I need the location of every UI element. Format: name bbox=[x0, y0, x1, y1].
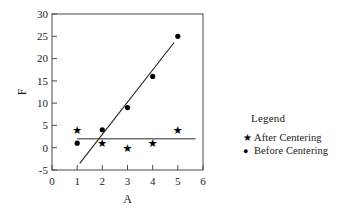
x-tick-label: 2 bbox=[100, 175, 106, 187]
x-axis-tick-labels: 0 1 2 3 4 5 6 bbox=[49, 175, 206, 187]
scatter-plot-canvas: -5 0 5 10 15 20 25 30 0 1 2 3 4 5 6 A F bbox=[0, 0, 360, 214]
legend-entry-before-centering: ● Before Centering bbox=[243, 144, 358, 158]
circle-icon: ● bbox=[243, 145, 254, 158]
x-tick-label: 4 bbox=[150, 175, 156, 187]
y-tick-label: 10 bbox=[37, 97, 49, 109]
y-axis-tick-labels: -5 0 5 10 15 20 25 30 bbox=[37, 8, 49, 176]
y-tick-label: 25 bbox=[37, 30, 49, 42]
y-tick-label: 15 bbox=[37, 75, 49, 87]
x-axis-ticks bbox=[52, 165, 203, 170]
data-point-circle bbox=[175, 34, 180, 39]
series-before-centering bbox=[75, 34, 181, 146]
data-point-circle bbox=[100, 127, 105, 132]
legend-title: Legend bbox=[251, 112, 358, 124]
legend-entry-after-centering: ★ After Centering bbox=[243, 131, 358, 144]
x-tick-label: 5 bbox=[175, 175, 181, 187]
data-point-circle bbox=[150, 74, 155, 79]
data-point-star: ★ bbox=[97, 137, 107, 150]
legend-entry-label: After Centering bbox=[254, 131, 322, 144]
y-axis-ticks bbox=[52, 14, 57, 170]
y-tick-label: 20 bbox=[37, 52, 49, 64]
data-point-circle bbox=[75, 141, 80, 146]
x-tick-label: 1 bbox=[74, 175, 80, 187]
y-axis-label: F bbox=[15, 88, 29, 95]
star-icon: ★ bbox=[243, 131, 254, 144]
data-point-star: ★ bbox=[72, 124, 82, 137]
y-tick-label: 30 bbox=[37, 8, 49, 20]
y-tick-label: 0 bbox=[43, 142, 49, 154]
data-point-circle bbox=[125, 105, 130, 110]
x-axis-label: A bbox=[123, 192, 132, 206]
x-tick-label: 6 bbox=[200, 175, 206, 187]
x-tick-label: 3 bbox=[125, 175, 131, 187]
data-point-star: ★ bbox=[123, 142, 133, 155]
x-tick-label: 0 bbox=[49, 175, 55, 187]
data-point-star: ★ bbox=[173, 124, 183, 137]
chart-figure: -5 0 5 10 15 20 25 30 0 1 2 3 4 5 6 A F bbox=[0, 0, 360, 214]
y-tick-label: -5 bbox=[39, 164, 49, 176]
legend: Legend ★ After Centering ● Before Center… bbox=[243, 112, 358, 158]
legend-entry-label: Before Centering bbox=[254, 144, 328, 157]
y-tick-label: 5 bbox=[43, 119, 49, 131]
data-point-star: ★ bbox=[148, 137, 158, 150]
